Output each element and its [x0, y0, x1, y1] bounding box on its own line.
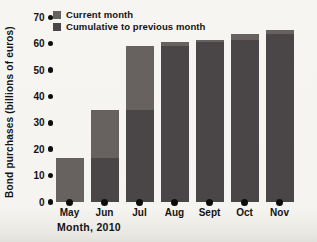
tick-dot-icon — [48, 120, 54, 126]
y-tick-50: 50 — [18, 65, 53, 76]
x-label-sept: Sept — [199, 207, 221, 218]
tick-dot-icon — [48, 41, 54, 47]
y-tick-10: 10 — [18, 170, 53, 181]
y-tick-70: 70 — [18, 12, 53, 23]
tick-dot-icon — [48, 173, 54, 179]
bar-base-dot-icon — [206, 199, 213, 206]
tick-dot-icon — [48, 146, 54, 152]
bar-base-dot-icon — [136, 199, 143, 206]
current-month-segment — [56, 158, 84, 202]
current-month-swatch-icon — [53, 11, 61, 19]
cumulative-segment — [161, 46, 189, 202]
tick-dot-icon — [48, 94, 54, 100]
cumulative-segment — [266, 34, 294, 202]
y-tick-value: 30 — [33, 117, 44, 128]
bar-base-dot-icon — [241, 199, 248, 206]
y-tick-0: 0 — [18, 197, 53, 208]
cumulative-segment — [126, 110, 154, 202]
bar-sept — [196, 40, 224, 202]
x-axis-title: Month, 2010 — [57, 221, 121, 233]
x-label-nov: Nov — [270, 207, 289, 218]
y-tick-value: 20 — [33, 144, 44, 155]
y-tick-value: 50 — [33, 65, 44, 76]
bar-may — [56, 158, 84, 202]
y-tick-30: 30 — [18, 117, 53, 128]
x-label-jul: Jul — [132, 207, 146, 218]
legend-label: Current month — [66, 9, 133, 20]
bar-jun — [91, 110, 119, 202]
bar-aug — [161, 42, 189, 202]
x-label-oct: Oct — [236, 207, 253, 218]
y-axis-label: Bond purchases (billions of euros) — [4, 26, 15, 198]
x-label-may: May — [60, 207, 79, 218]
bar-base-dot-icon — [276, 199, 283, 206]
legend-item-current-month: Current month — [53, 10, 206, 19]
y-tick-value: 60 — [33, 38, 44, 49]
bar-base-dot-icon — [101, 199, 108, 206]
y-tick-20: 20 — [18, 144, 53, 155]
y-tick-40: 40 — [18, 91, 53, 102]
x-label-jun: Jun — [96, 207, 114, 218]
cumulative-segment — [231, 40, 259, 202]
bar-nov — [266, 30, 294, 202]
y-tick-value: 10 — [33, 170, 44, 181]
cumulative-segment — [196, 42, 224, 202]
tick-dot-icon — [48, 15, 54, 21]
bar-jul — [126, 46, 154, 202]
legend-item-cumulative: Cumulative to previous month — [53, 22, 206, 31]
legend: Current month Cumulative to previous mon… — [53, 10, 206, 34]
current-month-segment — [91, 110, 119, 159]
tick-dot-icon — [48, 199, 54, 205]
bar-base-dot-icon — [66, 199, 73, 206]
y-tick-value: 0 — [39, 197, 45, 208]
cumulative-swatch-icon — [53, 23, 61, 31]
current-month-segment — [126, 46, 154, 109]
bond-purchases-chart: Bond purchases (billions of euros) Curre… — [0, 0, 317, 242]
bar-base-dot-icon — [171, 199, 178, 206]
cumulative-segment — [91, 158, 119, 202]
y-tick-value: 70 — [33, 12, 44, 23]
y-tick-60: 60 — [18, 38, 53, 49]
y-tick-value: 40 — [33, 91, 44, 102]
legend-label: Cumulative to previous month — [66, 21, 206, 32]
x-label-aug: Aug — [165, 207, 184, 218]
tick-dot-icon — [48, 67, 54, 73]
bar-oct — [231, 34, 259, 202]
